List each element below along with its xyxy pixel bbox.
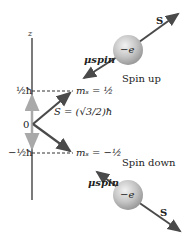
level-down-label: −½ħ bbox=[8, 148, 33, 158]
spin-down-particle-label: −e bbox=[120, 190, 134, 200]
level-up-label: ½ħ bbox=[16, 86, 32, 96]
magnitude-label: S = (√3/2)ħ bbox=[54, 107, 112, 117]
spin-down-caption: Spin down bbox=[122, 158, 176, 168]
ms-up-label: mₛ = ½ bbox=[76, 86, 113, 96]
spin-up-caption: Spin up bbox=[122, 74, 161, 84]
spin-down-mu-label: μspin bbox=[88, 178, 119, 188]
ms-down-label: mₛ = −½ bbox=[76, 148, 122, 158]
z-axis-label: z bbox=[28, 30, 32, 38]
spin-down-S-label: S bbox=[160, 208, 167, 218]
spin-up-mu-label: μspin bbox=[84, 55, 115, 65]
spin-up-S-label: S bbox=[156, 16, 163, 26]
origin-label: 0 bbox=[23, 120, 29, 130]
spin-down-vector bbox=[33, 124, 70, 151]
spin-up-particle-label: −e bbox=[120, 45, 134, 55]
